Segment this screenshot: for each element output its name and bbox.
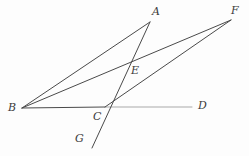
segment-c-f [105, 20, 231, 107]
segments-group [22, 20, 231, 148]
geometry-figure: A F B C D E G [0, 0, 249, 156]
point-label-B: B [8, 102, 16, 113]
point-label-D: D [198, 100, 207, 111]
geometry-canvas [0, 0, 249, 156]
segment-b-f [22, 20, 231, 108]
point-label-F: F [231, 5, 239, 16]
segment-b-c [22, 107, 105, 108]
point-label-A: A [152, 6, 160, 17]
point-label-G: G [75, 133, 84, 144]
point-label-C: C [93, 111, 101, 122]
point-label-E: E [131, 65, 139, 76]
